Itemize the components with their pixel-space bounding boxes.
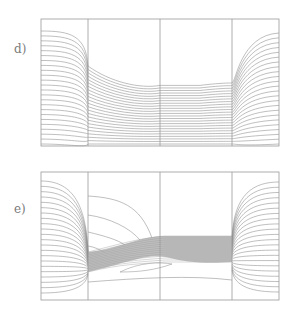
field-line	[232, 192, 279, 241]
field-line	[232, 224, 279, 250]
field-line	[88, 232, 125, 245]
field-line	[232, 264, 279, 271]
field-line-figure	[0, 0, 295, 315]
field-line	[232, 270, 279, 292]
field-line	[232, 250, 279, 258]
field-line	[41, 192, 88, 254]
field-line	[232, 182, 279, 238]
field-line	[41, 186, 88, 253]
field-line	[232, 255, 279, 259]
panel-d	[41, 19, 279, 146]
field-line	[41, 266, 88, 268]
field-line	[41, 208, 88, 258]
field-line	[232, 262, 279, 265]
lens-gap	[120, 263, 172, 272]
panel-e	[41, 172, 279, 300]
field-line	[88, 215, 140, 240]
field-line	[232, 229, 279, 252]
field-line	[41, 197, 88, 255]
field-line	[41, 270, 88, 272]
